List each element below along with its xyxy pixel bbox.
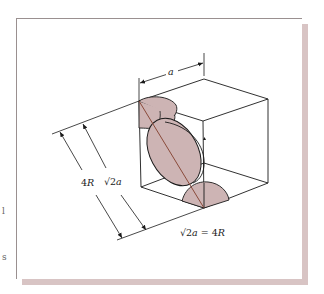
fcc-cube-diagram: a 4R √2a √2a = 4R: [0, 0, 324, 294]
equation-label: √2a = 4R: [180, 227, 225, 238]
label-edge-a: a: [168, 66, 174, 77]
label-4R: 4R: [81, 177, 94, 188]
dimension-a: [139, 53, 204, 101]
label-root2a: √2a: [104, 176, 122, 187]
corner-sphere-bottom: [182, 182, 229, 208]
